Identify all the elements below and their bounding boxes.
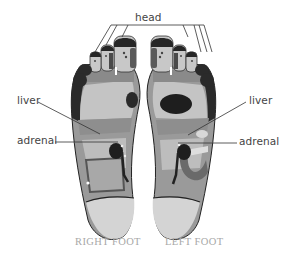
label-liver-right-foot: liver [17,94,40,106]
left-foot [147,36,216,239]
label-head: head [135,11,162,23]
label-liver-left-foot: liver [249,94,272,106]
reflexology-diagram [0,0,287,257]
caption-left-foot: LEFT FOOT [165,236,224,247]
label-adrenal-left-foot: adrenal [239,135,279,147]
label-adrenal-right-foot: adrenal [17,134,57,146]
right-foot [71,36,140,239]
caption-right-foot: RIGHT FOOT [75,236,141,247]
